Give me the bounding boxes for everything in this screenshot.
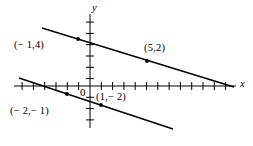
point-label-neg2-neg1: (− 2,− 1) xyxy=(10,105,49,116)
origin-label: 0 xyxy=(80,86,86,98)
coordinate-plane-svg xyxy=(0,0,253,146)
point-marker-neg1-4 xyxy=(76,37,80,41)
graph-figure: (− 1,4) (5,2) (− 2,− 1) (1,− 2) y x 0 xyxy=(0,0,253,146)
point-label-1-neg2: (1,− 2) xyxy=(96,91,126,102)
point-marker-neg2-neg1 xyxy=(65,92,69,96)
point-label-5-2: (5,2) xyxy=(144,42,165,53)
x-axis-label: x xyxy=(240,78,245,89)
upper-line xyxy=(42,28,234,87)
point-marker-1-neg2 xyxy=(99,103,103,107)
point-marker-5-2 xyxy=(145,59,149,63)
point-label-neg1-4: (− 1,4) xyxy=(14,39,44,50)
y-axis-label: y xyxy=(92,2,97,13)
